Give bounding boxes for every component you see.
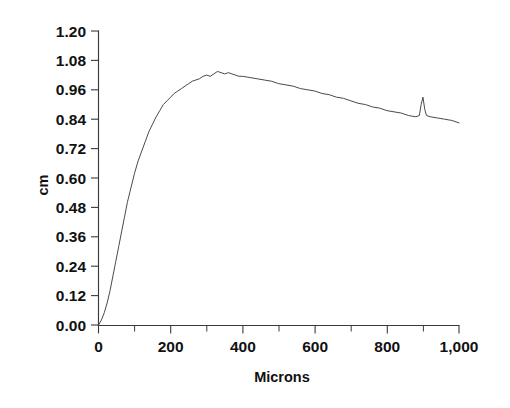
y-tick-label: 0.72: [56, 140, 86, 157]
y-tick-label: 0.36: [56, 228, 87, 245]
y-tick-label: 0.00: [56, 317, 86, 334]
x-tick-label: 0: [94, 338, 103, 355]
y-tick-label: 0.48: [56, 199, 87, 216]
y-axis-title: cm: [35, 175, 51, 196]
x-axis-title: Microns: [254, 369, 310, 385]
x-tick-label: 400: [230, 338, 256, 355]
y-tick-label: 0.84: [56, 111, 87, 128]
y-tick-label: 1.20: [56, 23, 86, 40]
x-tick-label: 200: [158, 338, 184, 355]
y-tick-label: 1.08: [56, 52, 87, 69]
y-tick-label: 0.96: [56, 81, 87, 98]
x-tick-label: 600: [302, 338, 328, 355]
line-chart: 1.20 1.08 0.96 0.84 0.72 0.60 0.48 0.36 …: [0, 0, 510, 408]
y-tick-label: 0.24: [56, 258, 87, 275]
x-tick-label: 800: [374, 338, 400, 355]
chart-figure: 1.20 1.08 0.96 0.84 0.72 0.60 0.48 0.36 …: [0, 0, 510, 408]
y-tick-label: 0.60: [56, 170, 86, 187]
y-tick-label: 0.12: [56, 287, 86, 304]
x-tick-label: 1,000: [440, 338, 479, 355]
